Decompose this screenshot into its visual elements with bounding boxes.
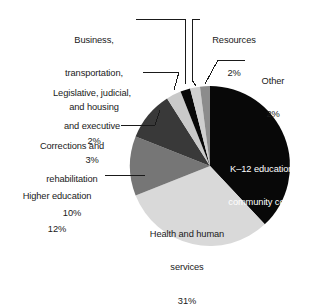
- slice-label-health-line2: services: [132, 262, 242, 273]
- callout-label-higher-education: Higher education 12%: [10, 168, 104, 258]
- callout-higher-education-value: 12%: [10, 224, 104, 235]
- slice-label-k12-line1: K–12 education &: [212, 164, 320, 175]
- callout-other-value: 2%: [246, 109, 300, 120]
- slice-label-health-line1: Health and human: [132, 229, 242, 240]
- callout-corrections-line1: Corrections and: [25, 141, 119, 152]
- leader-line-resources: [192, 19, 200, 86]
- callout-other-line1: Other: [246, 76, 300, 87]
- leader-line-legislative: [143, 72, 179, 90]
- callout-legislative-line1: Legislative, judicial,: [42, 88, 142, 99]
- slice-label-health-value: 31%: [132, 296, 242, 307]
- leader-line-business: [136, 19, 185, 84]
- callout-label-other: Other 2%: [246, 53, 300, 143]
- callout-resources-line1: Resources: [201, 35, 267, 46]
- callout-business-line1: Business,: [52, 35, 136, 46]
- slice-label-health-and-human-services: Health and human services 31%: [132, 206, 242, 308]
- callout-higher-education-line1: Higher education: [10, 191, 104, 202]
